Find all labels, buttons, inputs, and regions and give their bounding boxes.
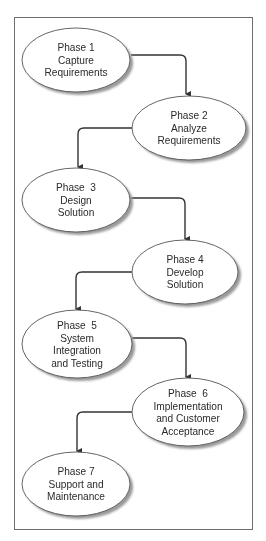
arrow-phase-3-to-phase-4 (131, 198, 185, 239)
arrow-phase-1-to-phase-2 (131, 55, 186, 94)
node-phase-2 (132, 96, 246, 160)
node-phase-7 (22, 452, 130, 516)
arrow-phase-4-to-phase-5 (76, 272, 132, 309)
arrow-phase-6-to-phase-7 (77, 412, 132, 451)
phase-flowchart (0, 0, 266, 541)
node-phase-4 (132, 240, 238, 304)
node-phase-3 (22, 168, 130, 232)
arrow-phase-5-to-phase-6 (132, 338, 186, 377)
arrow-phase-2-to-phase-3 (78, 128, 132, 167)
node-phase-5 (22, 310, 132, 378)
node-phase-1 (22, 28, 130, 92)
nodes (22, 28, 246, 516)
node-phase-6 (132, 378, 244, 446)
